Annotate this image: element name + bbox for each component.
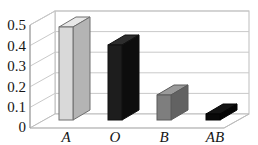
bar-B-front	[157, 95, 171, 120]
bar-O-side	[122, 35, 139, 120]
y-tick-label-0.4: 0.4	[7, 38, 26, 54]
y-tick-label-0.5: 0.5	[7, 17, 26, 33]
bar-O-front	[108, 45, 122, 120]
chart-left-wall	[30, 11, 55, 128]
bar-AB-front	[206, 114, 220, 120]
y-tick-label-0.2: 0.2	[7, 79, 26, 95]
y-tick-label-0: 0	[19, 119, 27, 135]
y-tick-label-0.1: 0.1	[7, 99, 26, 115]
bar-O[interactable]	[108, 35, 139, 120]
bar-A-side	[73, 17, 90, 120]
bar-chart-figure: 0.5 0.4 0.3 0.2 0.1 0 A O B AB	[0, 0, 258, 145]
chart-canvas: 0.5 0.4 0.3 0.2 0.1 0 A O B AB	[0, 0, 258, 145]
x-tick-label-AB: AB	[205, 129, 224, 145]
y-tick-label-0.3: 0.3	[7, 58, 26, 74]
bar-A-front	[59, 27, 73, 120]
x-tick-label-A: A	[60, 129, 71, 145]
x-tick-label-O: O	[110, 129, 121, 145]
bar-A[interactable]	[59, 17, 90, 120]
x-tick-label-B: B	[159, 129, 168, 145]
